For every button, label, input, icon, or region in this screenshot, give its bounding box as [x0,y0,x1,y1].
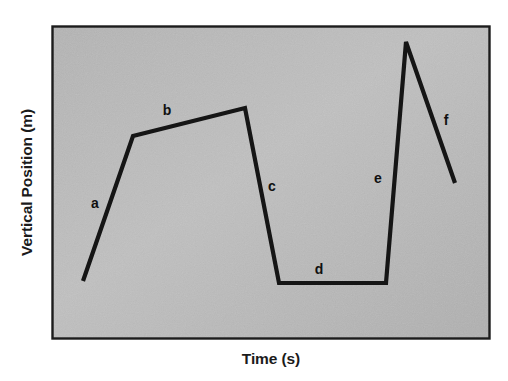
plot-canvas [0,0,508,381]
y-axis-label: Vertical Position (m) [14,26,40,339]
segment-label-d: d [315,262,324,276]
segment-label-b: b [163,103,172,117]
x-axis-label: Time (s) [52,350,490,368]
chart-figure: Vertical Position (m) Time (s) a b c d e… [0,0,508,381]
segment-label-f: f [444,113,449,127]
segment-label-e: e [374,171,382,185]
segment-label-c: c [268,179,276,193]
segment-label-a: a [91,196,99,210]
